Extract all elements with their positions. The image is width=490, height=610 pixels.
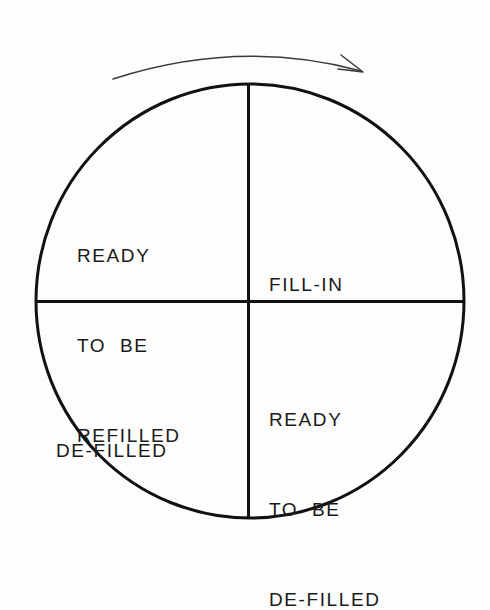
clockwise-rotation-arrow [113,56,361,79]
quadrant-label-de-filled: DE-FILLED [56,376,168,526]
quadrant-label-line: DE-FILLED [269,585,381,610]
quadrant-label-line: TO BE [77,331,181,361]
quadrant-label-line: READY [77,241,181,271]
quadrant-label-line: TO BE [269,495,381,525]
quadrant-label-ready-to-be-de-filled: READY TO BE DE-FILLED [269,345,381,610]
quadrant-label-line: READY [269,405,381,435]
quadrant-label-fill-in: FILL-IN [269,210,344,360]
quadrant-label-line: DE-FILLED [56,436,168,466]
quadrant-label-line: FILL-IN [269,270,344,300]
rotation-arrowhead-icon [338,55,363,72]
